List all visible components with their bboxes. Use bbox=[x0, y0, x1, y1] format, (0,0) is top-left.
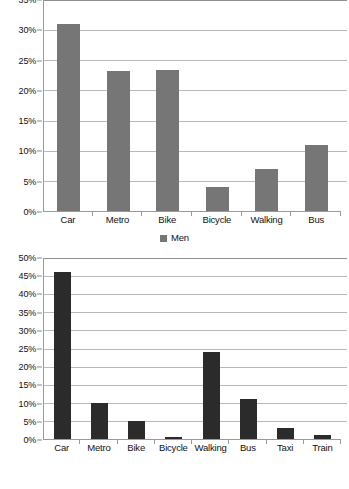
bar bbox=[156, 70, 179, 211]
y-axis-tick-mark bbox=[37, 0, 42, 1]
y-axis-tick-label: 35% bbox=[19, 308, 36, 317]
x-axis-tick-label: Bus bbox=[229, 442, 266, 453]
bar bbox=[165, 437, 182, 439]
plot-wrapper-men: 0%5%10%15%20%25%30%35% bbox=[0, 0, 349, 212]
y-axis-tick-label: 10% bbox=[19, 399, 36, 408]
bar-slot bbox=[143, 0, 193, 211]
x-axis-tick-label: Taxi bbox=[267, 442, 304, 453]
bar-slot bbox=[304, 258, 341, 439]
bar-slot bbox=[155, 258, 192, 439]
y-axis-tick-label: 15% bbox=[19, 117, 36, 126]
bar-slot bbox=[44, 0, 94, 211]
bar bbox=[206, 187, 229, 211]
bar-slot bbox=[242, 0, 292, 211]
bar bbox=[91, 403, 108, 439]
bar bbox=[255, 169, 278, 211]
y-axis-tick-mark bbox=[37, 181, 42, 182]
y-axis-tick-mark bbox=[37, 349, 42, 350]
y-axis-tick-mark bbox=[37, 367, 42, 368]
y-axis-tick-label: 45% bbox=[19, 272, 36, 281]
bar bbox=[54, 272, 71, 439]
legend-men: Men bbox=[0, 233, 349, 243]
y-axis-tick-label: 15% bbox=[19, 381, 36, 390]
y-axis-tick-mark bbox=[37, 212, 42, 213]
y-axis-tick-mark bbox=[37, 294, 42, 295]
y-axis-tick-mark bbox=[37, 30, 42, 31]
x-axis-tick-label: Metro bbox=[93, 214, 143, 225]
y-axis-men: 0%5%10%15%20%25%30%35% bbox=[0, 0, 42, 212]
x-axis-labels-women: CarMetroBikeBicycleWalkingBusTaxiTrain bbox=[43, 442, 341, 453]
bar-slot bbox=[292, 0, 342, 211]
chart-page: 0%5%10%15%20%25%30%35% CarMetroBikeBicyc… bbox=[0, 0, 349, 489]
plot-area-men bbox=[43, 0, 341, 212]
y-axis-tick-mark bbox=[37, 121, 42, 122]
bar-chart-women: 0%5%10%15%20%25%30%35%40%45%50% CarMetro… bbox=[0, 258, 349, 489]
bar bbox=[277, 428, 294, 439]
y-axis-tick-mark bbox=[37, 276, 42, 277]
y-axis-tick-mark bbox=[37, 385, 42, 386]
bar-slot bbox=[267, 258, 304, 439]
y-axis-tick-label: 0% bbox=[23, 436, 36, 445]
bar-slot bbox=[118, 258, 155, 439]
legend-label-men: Men bbox=[171, 233, 189, 243]
x-axis-tick-label: Walking bbox=[242, 214, 292, 225]
y-axis-tick-label: 20% bbox=[19, 86, 36, 95]
x-axis-tick-label: Train bbox=[304, 442, 341, 453]
x-axis-tick-label: Car bbox=[43, 442, 80, 453]
bar bbox=[203, 352, 220, 439]
y-axis-tick-label: 40% bbox=[19, 290, 36, 299]
y-axis-tick-mark bbox=[37, 151, 42, 152]
bar-slot bbox=[94, 0, 144, 211]
plot-wrapper-women: 0%5%10%15%20%25%30%35%40%45%50% bbox=[0, 258, 349, 440]
bar bbox=[107, 71, 130, 211]
bar-slot bbox=[193, 0, 243, 211]
x-axis-tick-label: Bicycle bbox=[155, 442, 192, 453]
y-axis-tick-mark bbox=[37, 90, 42, 91]
x-axis-labels-men: CarMetroBikeBicycleWalkingBus bbox=[43, 214, 341, 225]
y-axis-tick-label: 20% bbox=[19, 363, 36, 372]
y-axis-tick-label: 0% bbox=[23, 208, 36, 217]
bar bbox=[305, 145, 328, 211]
bar bbox=[128, 421, 145, 439]
y-axis-tick-label: 25% bbox=[19, 345, 36, 354]
y-axis-tick-label: 30% bbox=[19, 326, 36, 335]
legend-swatch-icon bbox=[160, 235, 167, 242]
bar-slot bbox=[44, 258, 81, 439]
bar-chart-men: 0%5%10%15%20%25%30%35% CarMetroBikeBicyc… bbox=[0, 0, 349, 252]
y-axis-tick-label: 30% bbox=[19, 26, 36, 35]
x-axis-tick-label: Walking bbox=[192, 442, 229, 453]
y-axis-tick-label: 10% bbox=[19, 147, 36, 156]
y-axis-women: 0%5%10%15%20%25%30%35%40%45%50% bbox=[0, 258, 42, 440]
y-axis-tick-label: 50% bbox=[19, 254, 36, 263]
plot-area-women bbox=[43, 258, 341, 440]
y-axis-tick-mark bbox=[37, 330, 42, 331]
bar-series-women bbox=[44, 258, 341, 439]
x-axis-tick-label: Bicycle bbox=[192, 214, 242, 225]
y-axis-tick-mark bbox=[37, 258, 42, 259]
bar bbox=[57, 24, 80, 211]
bar-series-men bbox=[44, 0, 341, 211]
x-axis-tick-label: Bike bbox=[118, 442, 155, 453]
bar bbox=[314, 435, 331, 439]
x-axis-tick-label: Car bbox=[43, 214, 93, 225]
y-axis-tick-label: 5% bbox=[23, 177, 36, 186]
y-axis-tick-label: 25% bbox=[19, 56, 36, 65]
y-axis-tick-mark bbox=[37, 403, 42, 404]
y-axis-tick-mark bbox=[37, 60, 42, 61]
x-axis-tick-label: Bus bbox=[291, 214, 341, 225]
y-axis-tick-mark bbox=[37, 312, 42, 313]
y-axis-tick-mark bbox=[37, 421, 42, 422]
y-axis-tick-label: 35% bbox=[19, 0, 36, 5]
bar bbox=[240, 399, 257, 439]
bar-slot bbox=[81, 258, 118, 439]
x-axis-tick-label: Metro bbox=[80, 442, 117, 453]
x-axis-tick-label: Bike bbox=[142, 214, 192, 225]
y-axis-tick-mark bbox=[37, 440, 42, 441]
bar-slot bbox=[230, 258, 267, 439]
y-axis-tick-label: 5% bbox=[23, 417, 36, 426]
bar-slot bbox=[193, 258, 230, 439]
